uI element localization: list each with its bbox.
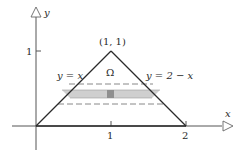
shaded-strip	[62, 90, 160, 98]
right-edge-label: y = 2 − x	[145, 70, 193, 81]
triangle-region	[36, 51, 186, 126]
edge-y-equals-x	[36, 51, 111, 126]
x-tick-2: 2	[182, 130, 188, 141]
y-axis-arrow-icon	[31, 7, 41, 17]
strip-highlight-cell	[107, 90, 114, 98]
x-axis-label: x	[225, 108, 231, 119]
x-axis: x 1 2	[12, 108, 233, 141]
region-label: Ω	[106, 67, 114, 78]
y-axis: y 1	[26, 7, 50, 150]
edge-y-equals-2-minus-x	[111, 51, 186, 126]
region-diagram: y 1 x 1 2 (1, 1) Ω y = x y = 2 − x	[0, 0, 250, 155]
vertex-label: (1, 1)	[99, 36, 126, 47]
x-tick-1: 1	[107, 130, 113, 141]
y-axis-label: y	[43, 7, 50, 18]
x-axis-arrow-icon	[223, 121, 233, 131]
y-tick-1: 1	[26, 46, 32, 57]
left-edge-label: y = x	[56, 70, 83, 81]
